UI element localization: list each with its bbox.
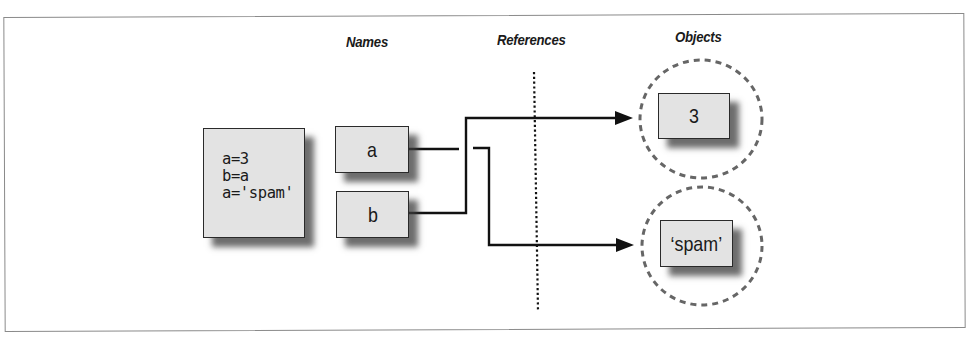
code-line: a='spam' [222,185,304,202]
heading-names: Names [346,33,388,50]
name-label: b [368,203,378,227]
object-label: ‘spam’ [671,232,723,256]
name-box-b: b [336,191,409,238]
code-box: a=3 b=a a='spam' [203,128,305,238]
figure-frame [3,13,965,332]
name-label: a [367,138,377,162]
object-box-spam: ‘spam’ [660,220,733,267]
heading-objects: Objects [675,28,722,45]
heading-references: References [497,31,566,48]
name-box-a: a [335,126,409,173]
object-box-3: 3 [658,93,730,139]
code-line: b=a [222,168,304,185]
object-label: 3 [689,104,699,128]
code-line: a=3 [222,151,304,168]
